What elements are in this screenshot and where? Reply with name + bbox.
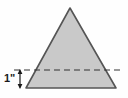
diagram-canvas: 1"	[0, 0, 128, 98]
height-dimension-label: 1"	[4, 72, 15, 84]
triangle-diagram: 1"	[0, 0, 128, 98]
